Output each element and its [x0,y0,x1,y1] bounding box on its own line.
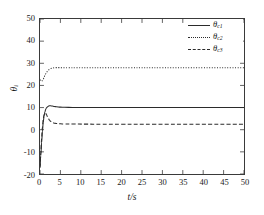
x-axis-label-text: t/s [128,192,137,202]
legend-label: θc3 [213,44,222,55]
legend-swatch-dotted-icon [188,37,210,38]
legend-item-θc2: θc2 [188,33,241,42]
legend-swatch-solid-icon [188,25,210,26]
series-line-θc2 [40,68,244,82]
legend-label: θc2 [213,32,222,43]
y-axis-tick-label: 30 [0,59,35,68]
y-axis-tick-label: 40 [0,36,35,45]
chart-figure: 50403020100-10-20 05101520253035404550 θ… [0,0,264,215]
legend-item-θc3: θc3 [188,45,241,54]
x-axis-tick-label: 50 [232,178,258,187]
y-axis-tick-label: 50 [0,14,35,23]
y-axis-label: θi [9,76,19,100]
series-line-θc3 [40,113,244,167]
series-line-θc1 [40,106,244,168]
y-axis-label-text: θi [9,85,19,91]
legend: θc1θc2θc3 [186,19,243,56]
y-axis-tick-label: -10 [0,148,35,157]
legend-item-θc1: θc1 [188,21,241,30]
legend-label: θc1 [213,20,222,31]
y-axis-tick-label: 10 [0,103,35,112]
x-axis-label: t/s [0,192,264,202]
legend-swatch-dashed-icon [188,49,210,50]
y-axis-tick-label: 0 [0,126,35,135]
